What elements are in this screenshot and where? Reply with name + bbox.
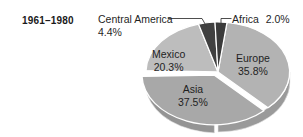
slice-label-africa-percent: 2.0%: [266, 13, 290, 25]
slice-label-mexico-percent: 20.3%: [152, 61, 185, 74]
slice-label-central-america: Central America 4.4%: [98, 13, 173, 38]
slice-label-central-america-name: Central America: [98, 13, 173, 26]
slice-label-asia: Asia 37.5%: [178, 83, 208, 108]
slice-label-mexico: Mexico 20.3%: [152, 48, 185, 73]
slice-label-europe: Europe 35.8%: [236, 52, 270, 77]
slice-label-asia-percent: 37.5%: [178, 96, 208, 109]
pie-chart-figure: 1961–1980: [0, 0, 303, 137]
slice-label-africa-name: Africa: [232, 13, 259, 25]
slice-label-mexico-name: Mexico: [152, 48, 185, 61]
slice-label-central-america-percent: 4.4%: [98, 26, 173, 39]
slice-label-africa: Africa 2.0%: [232, 13, 290, 26]
slice-label-europe-percent: 35.8%: [236, 65, 270, 78]
slice-label-europe-name: Europe: [236, 52, 270, 65]
slice-label-asia-name: Asia: [178, 83, 208, 96]
